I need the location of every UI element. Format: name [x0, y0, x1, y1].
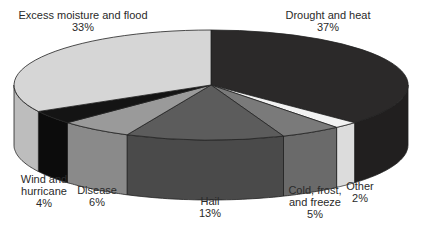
- label-disease: Disease 6%: [72, 184, 122, 208]
- label-hail: Hail 13%: [190, 195, 230, 219]
- label-wind-hurricane: Wind and hurricane 4%: [14, 173, 74, 209]
- label-drought: Drought and heat 37%: [268, 9, 388, 33]
- slice-side-other: [337, 123, 355, 188]
- slice-side-hail: [127, 135, 283, 200]
- label-other: Other 2%: [340, 180, 380, 204]
- label-excess-moisture: Excess moisture and flood 33%: [8, 9, 158, 33]
